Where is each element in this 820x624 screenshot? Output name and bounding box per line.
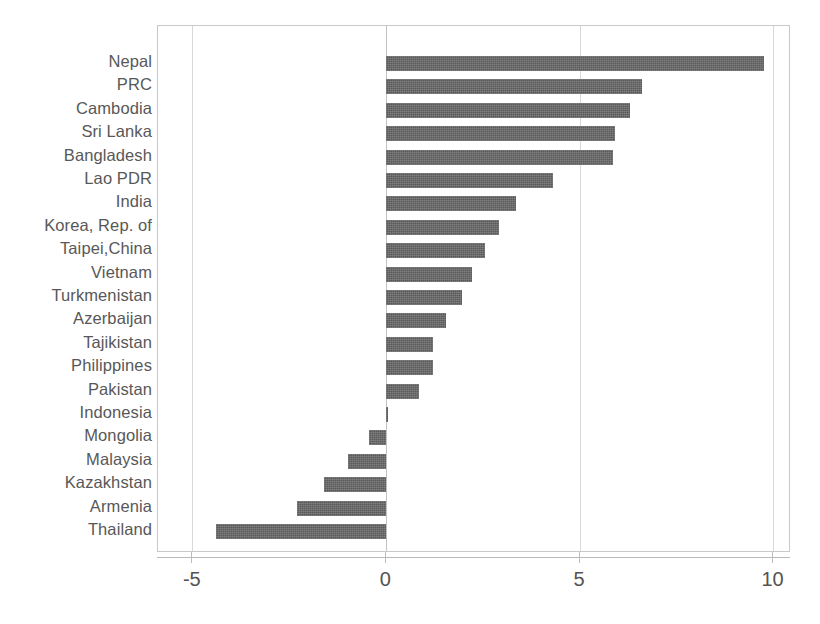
bar [386,290,461,305]
y-axis-label: Nepal [0,53,152,70]
bar [386,243,485,258]
x-tick-label: 0 [380,567,391,591]
y-axis-label: Bangladesh [0,147,152,164]
y-axis-label: Sri Lanka [0,123,152,140]
bar [386,150,612,165]
y-axis-label: Taipei,China [0,240,152,257]
y-axis-label: Kazakhstan [0,474,152,491]
y-axis-label: Cambodia [0,100,152,117]
bar [386,196,516,211]
y-axis-category-labels: NepalPRCCambodiaSri LankaBangladeshLao P… [0,25,152,552]
bar [386,220,498,235]
bar [386,103,630,118]
y-axis-label: Azerbaijan [0,310,152,327]
bar [348,454,387,469]
gridline-neg5 [192,26,193,551]
y-axis-label: Armenia [0,498,152,515]
bar [386,360,432,375]
bar [386,384,419,399]
x-tick-label: -5 [183,567,201,591]
y-axis-label: PRC [0,76,152,93]
bar [386,267,471,282]
y-axis-label: Mongolia [0,427,152,444]
bar [297,501,386,516]
x-tick-mark [385,552,386,563]
bar [386,79,642,94]
bar [386,173,552,188]
y-axis-label: Malaysia [0,451,152,468]
x-tick-mark [191,552,192,563]
y-axis-label: Thailand [0,521,152,538]
bar [324,477,386,492]
y-axis-label: Lao PDR [0,170,152,187]
bar [216,524,386,539]
y-axis-label: Turkmenistan [0,287,152,304]
bar [386,56,763,71]
bar [369,430,386,445]
y-axis-label: India [0,193,152,210]
x-tick-label: 10 [761,567,783,591]
x-axis-line [157,557,790,558]
y-axis-label: Philippines [0,357,152,374]
y-axis-label: Indonesia [0,404,152,421]
y-axis-label: Korea, Rep. of [0,217,152,234]
bar [386,313,446,328]
bar [386,407,388,422]
bar-chart: NepalPRCCambodiaSri LankaBangladeshLao P… [0,0,820,624]
y-axis-label: Pakistan [0,381,152,398]
bar [386,337,432,352]
x-tick-mark [772,552,773,563]
y-axis-label: Tajikistan [0,334,152,351]
x-tick-label: 5 [573,567,584,591]
x-tick-mark [579,552,580,563]
plot-area [157,25,790,552]
bar [386,126,614,141]
y-axis-label: Vietnam [0,264,152,281]
gridline-10 [773,26,774,551]
